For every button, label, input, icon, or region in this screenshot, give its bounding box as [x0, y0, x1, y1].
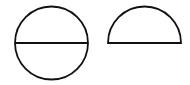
- circle-with-diameter: [15, 7, 88, 80]
- diagram-canvas: [0, 0, 190, 85]
- semicircle-shape: [108, 7, 181, 44]
- semicircle-arc-and-base: [108, 7, 181, 44]
